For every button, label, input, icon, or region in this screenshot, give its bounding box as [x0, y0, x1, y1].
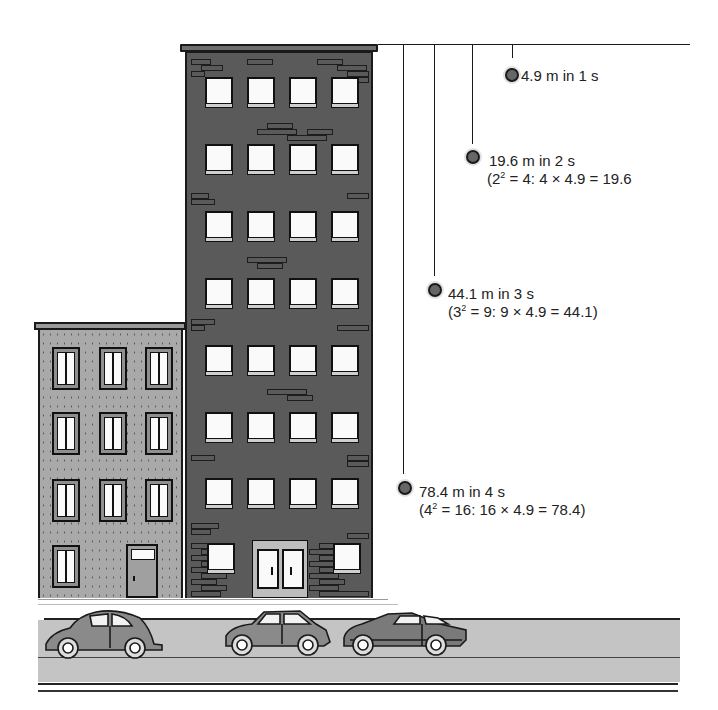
drop-label-3s: 44.1 m in 3 s: [448, 285, 534, 302]
drop-detail-4s: (42 = 16: 16 × 4.9 = 78.4): [419, 501, 585, 518]
rooftop-reference-line: [378, 44, 690, 45]
drop-line-3s: [434, 44, 435, 276]
drop-line-2s: [472, 44, 473, 144]
drop-line-1s: [512, 44, 513, 58]
drop-detail-2s: (22 = 4: 4 × 4.9 = 19.6: [487, 170, 632, 187]
car-hatchback: [226, 611, 330, 655]
ball-4s-icon: [398, 481, 412, 495]
car-beetle: [46, 611, 162, 658]
ball-2s-icon: [466, 150, 480, 164]
drop-label-4s: 78.4 m in 4 s: [419, 483, 505, 500]
drop-label-1s: 4.9 m in 1 s: [521, 67, 599, 84]
drop-label-2s: 19.6 m in 2 s: [489, 152, 575, 169]
ball-3s-icon: [428, 283, 442, 297]
car-coupe: [344, 613, 466, 655]
ball-1s-icon: [505, 68, 519, 82]
drop-line-4s: [403, 44, 404, 474]
drop-detail-3s: (32 = 9: 9 × 4.9 = 44.1): [448, 303, 598, 320]
cars: [0, 0, 718, 710]
